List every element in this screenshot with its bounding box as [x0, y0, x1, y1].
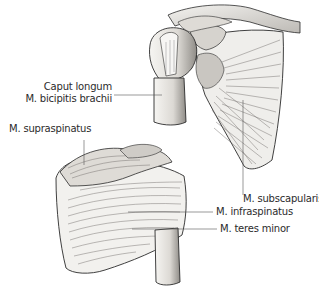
label-infraspinatus: M. infraspinatus	[216, 206, 293, 218]
anterior-view	[149, 5, 300, 169]
label-teres-minor: M. teres minor	[220, 223, 290, 235]
label-caput-longum-line2: M. bicipitis brachii	[14, 93, 112, 105]
label-caput-longum-line1: Caput longum	[14, 81, 112, 93]
label-subscapularis: M. subscapularis	[243, 193, 319, 205]
shoulder-muscle-diagram: Caput longum M. bicipitis brachii M. sup…	[0, 0, 319, 288]
posterior-view	[56, 144, 186, 285]
label-supraspinatus: M. supraspinatus	[9, 123, 91, 135]
anatomical-drawing	[0, 0, 319, 288]
label-caput-longum: Caput longum M. bicipitis brachii	[14, 81, 112, 105]
